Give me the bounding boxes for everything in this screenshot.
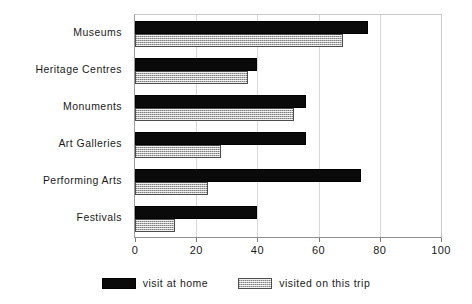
x-tick xyxy=(380,238,381,242)
category-label-monuments: Monuments xyxy=(0,100,122,112)
x-tick-label-0: 0 xyxy=(132,244,139,256)
legend-label: visit at home xyxy=(143,277,208,289)
gridline xyxy=(257,15,258,237)
bar-festivals-visit-at-home xyxy=(135,206,257,219)
x-tick-label-60: 60 xyxy=(312,244,325,256)
bar-art-galleries-visit-at-home xyxy=(135,132,306,145)
bar-art-galleries-visited-on-this-trip xyxy=(135,145,221,158)
gridline xyxy=(380,15,381,237)
x-tick-label-100: 100 xyxy=(431,244,451,256)
bar-museums-visited-on-this-trip xyxy=(135,34,343,47)
chart-legend: visit at homevisited on this trip xyxy=(0,272,472,294)
category-label-art-galleries: Art Galleries xyxy=(0,137,122,149)
x-tick-label-20: 20 xyxy=(190,244,203,256)
category-label-festivals: Festivals xyxy=(0,211,122,223)
gridline xyxy=(319,15,320,237)
bar-heritage-centres-visited-on-this-trip xyxy=(135,71,248,84)
bar-museums-visit-at-home xyxy=(135,21,368,34)
bar-festivals-visited-on-this-trip xyxy=(135,219,175,232)
legend-item-visit-at-home: visit at home xyxy=(102,277,208,289)
bar-monuments-visit-at-home xyxy=(135,95,306,108)
bar-performing-arts-visit-at-home xyxy=(135,169,361,182)
x-tick-label-80: 80 xyxy=(373,244,386,256)
x-tick xyxy=(441,238,442,242)
bar-performing-arts-visited-on-this-trip xyxy=(135,182,208,195)
gridline xyxy=(196,15,197,237)
bar-heritage-centres-visit-at-home xyxy=(135,58,257,71)
x-tick xyxy=(196,238,197,242)
category-axis-labels: MuseumsHeritage CentresMonumentsArt Gall… xyxy=(0,14,128,238)
bar-monuments-visited-on-this-trip xyxy=(135,108,294,121)
x-tick xyxy=(257,238,258,242)
hatched-gray-swatch xyxy=(238,278,272,289)
x-tick xyxy=(135,238,136,242)
legend-label: visited on this trip xyxy=(279,277,370,289)
category-label-heritage-centres: Heritage Centres xyxy=(0,63,122,75)
category-label-museums: Museums xyxy=(0,26,122,38)
plot-area xyxy=(134,14,442,238)
category-label-performing-arts: Performing Arts xyxy=(0,174,122,186)
x-axis: 020406080100 xyxy=(134,238,442,264)
legend-item-visited-on-this-trip: visited on this trip xyxy=(238,277,370,289)
solid-black-swatch xyxy=(102,278,136,289)
x-tick-label-40: 40 xyxy=(251,244,264,256)
x-tick xyxy=(319,238,320,242)
bar-chart: MuseumsHeritage CentresMonumentsArt Gall… xyxy=(0,0,472,304)
